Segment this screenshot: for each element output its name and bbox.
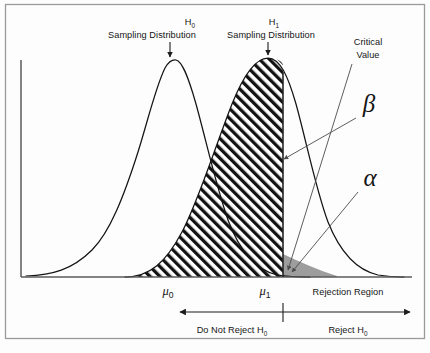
- h0-label-symbol: H0: [185, 17, 196, 29]
- mu1-label: μ1: [258, 284, 270, 300]
- beta-region-hatched: [125, 58, 284, 277]
- do-not-reject-label: Do Not Reject H0: [197, 325, 268, 337]
- h0-label-text: Sampling Distribution: [108, 30, 196, 40]
- hypothesis-test-figure: H0 Sampling Distribution H1 Sampling Dis…: [0, 0, 430, 353]
- h1-label-text: Sampling Distribution: [227, 30, 315, 40]
- critical-value-label-line1: Critical: [354, 37, 382, 47]
- rejection-region-label: Rejection Region: [313, 287, 384, 297]
- alpha-pointer: [292, 192, 358, 272]
- beta-pointer: [284, 118, 356, 159]
- h1-label-symbol: H1: [269, 17, 280, 29]
- mu0-label: μ0: [161, 284, 173, 300]
- critical-value-label-line2: Value: [356, 50, 379, 60]
- alpha-symbol: α: [363, 164, 377, 191]
- critical-value-pointer: [288, 64, 352, 270]
- reject-label: Reject H0: [328, 325, 368, 337]
- beta-symbol: β: [362, 90, 376, 117]
- alpha-region-shaded: [283, 254, 337, 277]
